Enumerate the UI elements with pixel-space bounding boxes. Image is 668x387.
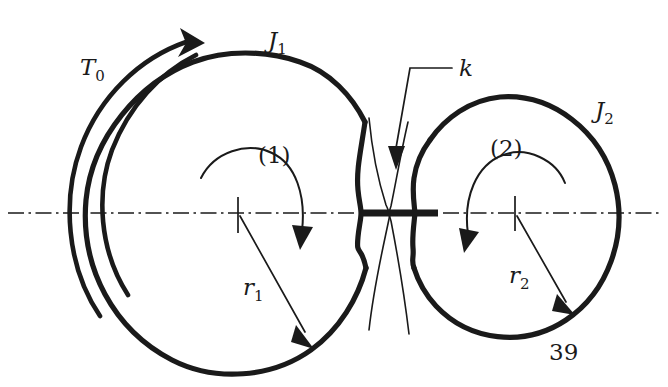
- torsional-system-diagram: T0 J1 J2 k (1) (2) r1 r2 39: [0, 0, 668, 387]
- label-radius-1: r1: [243, 274, 264, 305]
- label-stiffness: k: [459, 55, 473, 81]
- label-radius-2: r2: [509, 262, 530, 293]
- radius-2-dimension: [515, 196, 575, 315]
- rotation-arrow-1: [201, 148, 313, 250]
- label-applied-torque: T0: [80, 54, 105, 85]
- figure-root: T0 J1 J2 k (1) (2) r1 r2 39: [0, 0, 668, 387]
- label-inertia-2: J2: [591, 97, 614, 128]
- label-figure-number: 39: [549, 339, 578, 365]
- label-coordinate-1: (1): [258, 142, 291, 168]
- disc-1-inner-edge: [369, 118, 389, 330]
- label-coordinate-2: (2): [490, 135, 523, 161]
- rotation-arrow-2: [459, 152, 565, 253]
